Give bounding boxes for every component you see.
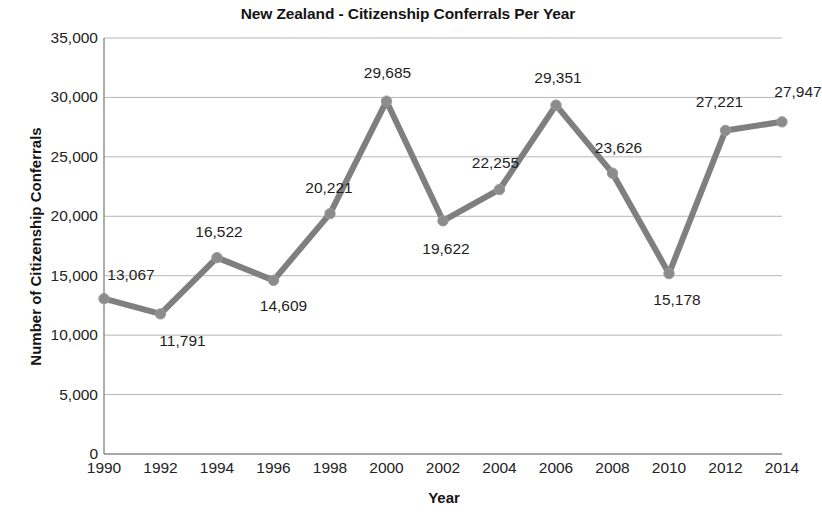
data-point-marker xyxy=(664,268,674,278)
data-point-marker xyxy=(268,275,278,285)
data-point-marker xyxy=(607,168,617,178)
data-point-marker xyxy=(438,216,448,226)
x-axis-title: Year xyxy=(104,489,784,506)
data-label: 13,067 xyxy=(107,266,154,284)
data-label: 16,522 xyxy=(195,223,242,241)
data-point-marker xyxy=(381,96,391,106)
data-label: 29,351 xyxy=(534,69,581,87)
data-label: 11,791 xyxy=(159,332,205,350)
data-label: 27,221 xyxy=(696,93,743,111)
series-line xyxy=(104,101,782,314)
data-label: 15,178 xyxy=(653,291,700,309)
data-label: 20,221 xyxy=(305,179,352,197)
data-label: 19,622 xyxy=(422,240,469,258)
data-point-marker xyxy=(551,100,561,110)
data-point-marker xyxy=(777,117,787,127)
data-label: 22,255 xyxy=(472,154,519,172)
data-point-marker xyxy=(155,309,165,319)
data-label: 23,626 xyxy=(595,139,642,157)
data-point-marker xyxy=(212,252,222,262)
data-point-marker xyxy=(720,125,730,135)
data-label: 27,947 xyxy=(774,83,821,101)
data-label: 29,685 xyxy=(364,64,411,82)
data-point-marker xyxy=(325,208,335,218)
data-point-marker xyxy=(99,293,109,303)
data-point-marker xyxy=(494,184,504,194)
data-label: 14,609 xyxy=(260,297,307,315)
